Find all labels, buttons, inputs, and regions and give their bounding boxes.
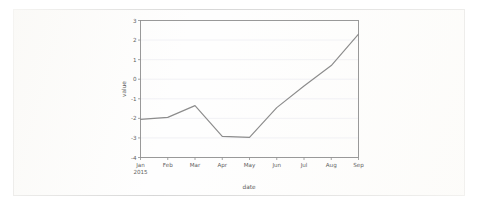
x-tick-year-label: 2015 <box>133 169 148 175</box>
line-chart: 3210-1-2-3-4 Jan2015FebMarAprMayJunJulAu… <box>0 0 483 214</box>
data-series-line <box>141 34 359 137</box>
x-tick-label: Apr <box>217 162 227 169</box>
y-tick-label: -4 <box>131 155 137 161</box>
screenshot-page: 3210-1-2-3-4 Jan2015FebMarAprMayJunJulAu… <box>0 0 483 214</box>
y-tick-label: 2 <box>133 37 137 43</box>
y-tick-label: 1 <box>133 57 137 63</box>
y-tick-label: -3 <box>131 135 137 141</box>
x-tick-labels: Jan2015FebMarAprMayJunJulAugSep <box>133 162 364 175</box>
y-tick-label: 3 <box>133 18 137 24</box>
x-tick-label: Jul <box>300 162 308 169</box>
y-axis-label: value <box>121 81 127 97</box>
x-tick-label: Jun <box>271 162 281 169</box>
x-tick-label: Jan <box>135 162 145 169</box>
y-tick-label: 0 <box>133 76 137 82</box>
x-tick-label: Sep <box>353 162 364 169</box>
y-gridlines <box>141 40 358 138</box>
x-axis-label: date <box>242 184 256 190</box>
x-tick-label: Feb <box>163 162 173 168</box>
y-tick-labels: 3210-1-2-3-4 <box>131 18 137 161</box>
x-tick-label: May <box>244 162 256 169</box>
y-tick-label: -2 <box>131 115 137 121</box>
x-tick-label: Mar <box>190 162 201 168</box>
x-tick-label: Aug <box>326 162 337 169</box>
y-tick-label: -1 <box>131 96 137 102</box>
chart-figure: 3210-1-2-3-4 Jan2015FebMarAprMayJunJulAu… <box>0 0 483 214</box>
